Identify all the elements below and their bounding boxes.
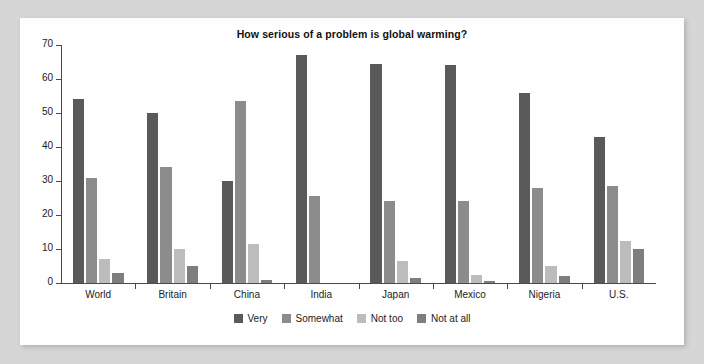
bars — [61, 45, 135, 283]
x-axis-label-china: China — [210, 289, 284, 300]
bars — [507, 45, 581, 283]
bar-very[interactable] — [370, 64, 381, 283]
y-tick-label: 20 — [29, 208, 53, 219]
bar-not-too[interactable] — [99, 259, 110, 283]
bar-group-mexico: Mexico — [433, 45, 507, 283]
bars — [135, 45, 209, 283]
x-axis-label-mexico: Mexico — [433, 289, 507, 300]
bar-not-at-all[interactable] — [559, 276, 570, 283]
bar-very[interactable] — [222, 181, 233, 283]
chart-title: How serious of a problem is global warmi… — [20, 28, 684, 40]
legend-swatch-icon — [282, 314, 291, 323]
bar-not-at-all[interactable] — [410, 278, 421, 283]
chart-legend: VerySomewhatNot tooNot at all — [20, 313, 684, 324]
chart-panel: How serious of a problem is global warmi… — [20, 18, 684, 345]
legend-swatch-icon — [234, 314, 243, 323]
y-tick-label: 30 — [29, 174, 53, 185]
y-tick-label: 0 — [29, 276, 53, 287]
bars — [359, 45, 433, 283]
bar-very[interactable] — [296, 55, 307, 283]
bar-not-at-all[interactable] — [112, 273, 123, 283]
legend-label: Somewhat — [296, 313, 343, 324]
bar-group-india: India — [284, 45, 358, 283]
chart-page: How serious of a problem is global warmi… — [0, 0, 704, 364]
legend-item-not-at-all[interactable]: Not at all — [417, 313, 470, 324]
bars — [433, 45, 507, 283]
plot-area: 010203040506070 WorldBritainChinaIndiaJa… — [61, 45, 656, 283]
bar-somewhat[interactable] — [235, 101, 246, 283]
legend-label: Very — [248, 313, 268, 324]
bar-not-too[interactable] — [397, 261, 408, 283]
bar-somewhat[interactable] — [384, 201, 395, 283]
bar-not-at-all[interactable] — [261, 280, 272, 283]
bar-very[interactable] — [519, 93, 530, 283]
legend-item-somewhat[interactable]: Somewhat — [282, 313, 343, 324]
x-axis-label-nigeria: Nigeria — [507, 289, 581, 300]
bar-not-at-all[interactable] — [484, 281, 495, 283]
bar-not-too[interactable] — [248, 244, 259, 283]
bar-somewhat[interactable] — [160, 167, 171, 283]
x-axis-label-britain: Britain — [135, 289, 209, 300]
y-tick-label: 70 — [29, 38, 53, 49]
legend-label: Not too — [371, 313, 403, 324]
legend-label: Not at all — [431, 313, 470, 324]
bar-very[interactable] — [147, 113, 158, 283]
bar-somewhat[interactable] — [607, 186, 618, 283]
bars — [582, 45, 656, 283]
bar-very[interactable] — [445, 65, 456, 283]
bar-not-too[interactable] — [471, 275, 482, 284]
bars — [210, 45, 284, 283]
bar-somewhat[interactable] — [86, 178, 97, 283]
bar-somewhat[interactable] — [458, 201, 469, 283]
x-axis-label-japan: Japan — [359, 289, 433, 300]
y-tick-label: 60 — [29, 72, 53, 83]
x-axis-label-world: World — [61, 289, 135, 300]
bar-group-britain: Britain — [135, 45, 209, 283]
y-tick-mark — [56, 283, 61, 284]
legend-item-not-too[interactable]: Not too — [357, 313, 403, 324]
x-axis-label-india: India — [284, 289, 358, 300]
bar-somewhat[interactable] — [309, 196, 320, 283]
bars — [284, 45, 358, 283]
y-tick-label: 40 — [29, 140, 53, 151]
legend-swatch-icon — [417, 314, 426, 323]
bar-not-at-all[interactable] — [187, 266, 198, 283]
legend-swatch-icon — [357, 314, 366, 323]
bar-not-too[interactable] — [545, 266, 556, 283]
bar-not-too[interactable] — [174, 249, 185, 283]
bar-somewhat[interactable] — [532, 188, 543, 283]
bar-group-world: World — [61, 45, 135, 283]
bar-not-too[interactable] — [620, 241, 631, 284]
bar-group-japan: Japan — [359, 45, 433, 283]
y-tick-label: 50 — [29, 106, 53, 117]
bar-very[interactable] — [594, 137, 605, 283]
bar-group-us: U.S. — [582, 45, 656, 283]
bar-not-at-all[interactable] — [633, 249, 644, 283]
legend-item-very[interactable]: Very — [234, 313, 268, 324]
x-axis-label-us: U.S. — [582, 289, 656, 300]
bar-group-nigeria: Nigeria — [507, 45, 581, 283]
bar-very[interactable] — [73, 99, 84, 283]
bar-group-china: China — [210, 45, 284, 283]
y-tick-label: 10 — [29, 242, 53, 253]
